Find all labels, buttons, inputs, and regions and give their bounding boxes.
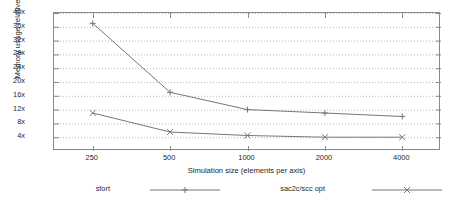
y-tick-label: 24x: [0, 62, 25, 71]
y-tick-label: 28x: [0, 48, 25, 57]
x-tick-label: 1000: [227, 153, 267, 162]
y-tick-label: 4x: [0, 131, 25, 140]
data-series-layer: [54, 13, 441, 151]
x-axis-title: Simulation size (elements per axis): [53, 166, 440, 175]
y-tick-label: 16x: [0, 90, 25, 99]
x-tick-label: 500: [149, 153, 189, 162]
y-tick-label: 40x: [0, 7, 25, 16]
legend-label: sfort: [20, 184, 110, 193]
y-tick-label: 20x: [0, 76, 25, 85]
y-tick-label: 8x: [0, 117, 25, 126]
legend-line-sample: [148, 183, 222, 197]
y-tick-label: 32x: [0, 35, 25, 44]
legend-label: sac2c/scc opt: [215, 184, 325, 193]
chart-legend: sfortsac2c/scc opt: [0, 183, 469, 199]
y-tick-label: 36x: [0, 21, 25, 30]
x-tick-label: 4000: [381, 153, 421, 162]
chart-figure: Memory usage relative to array size 4x8x…: [0, 0, 469, 210]
plot-area: [53, 12, 440, 150]
legend-line-sample: [370, 183, 444, 197]
y-tick-label: 12x: [0, 104, 25, 113]
x-tick-label: 2000: [304, 153, 344, 162]
x-tick-label: 250: [72, 153, 112, 162]
